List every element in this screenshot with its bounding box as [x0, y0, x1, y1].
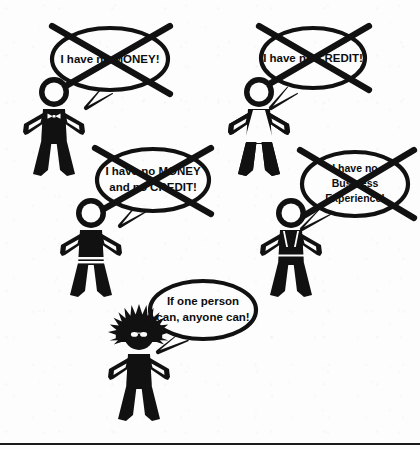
stick-figure-skirt	[60, 198, 122, 297]
speech-bubble-no-credit: I have no CREDIT!	[259, 26, 369, 108]
cartoon-scene: I have no MONEY! I have no CREDIT! I hav…	[0, 0, 420, 449]
stick-figure-bowtie	[23, 77, 85, 176]
speech-bubble-anyone-can: If one person can, anyone can!	[150, 281, 256, 352]
speech-bubble-no-money: I have no MONEY!	[52, 26, 170, 108]
bubble-line-anyone-can-0: If one person	[167, 295, 239, 307]
bubble-line-no-money-no-credit-0: I have no MONEY	[105, 165, 201, 177]
speech-bubble-no-money-no-credit: I have no MONEY and no CREDIT!	[95, 148, 211, 226]
stick-figure-hero	[108, 304, 170, 421]
bubble-body-anyone-can	[150, 281, 256, 339]
bubble-line-anyone-can-1: can, anyone can!	[156, 311, 249, 323]
bottom-divider	[0, 443, 420, 445]
cartoon-canvas: I have no MONEY! I have no CREDIT! I hav…	[0, 0, 420, 449]
stick-figure-dress	[228, 77, 290, 176]
speech-bubble-no-business-experience: I have no Business Experience!	[300, 150, 414, 229]
